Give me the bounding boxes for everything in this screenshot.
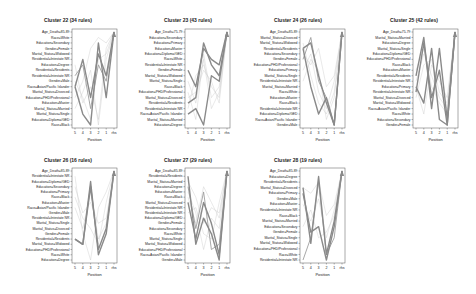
x-tick-label: 5 (187, 131, 189, 135)
x-tick-label: 5 (74, 266, 76, 270)
cluster-panel-2: Cluster 24 (26 rules)Age_Death=85-89Mari… (254, 17, 345, 142)
panel-title: Cluster 25 (42 rules) (390, 17, 438, 23)
y-axis-label: Race=White (279, 253, 298, 257)
y-axis-label: Marital_Status=Widowed (145, 74, 183, 78)
y-axis-label: Race=Black (392, 63, 410, 67)
x-tick-label: rhs (225, 266, 230, 270)
y-axis-label: Marital_Status=Widowed (260, 41, 298, 45)
x-tick-label: 5 (302, 131, 304, 135)
y-axis-label: Education=Secondary (264, 225, 298, 229)
y-axis-label: Education=PHD/Professional (367, 57, 411, 61)
rhs-arrow-icon (225, 31, 229, 37)
rule-line (75, 171, 114, 250)
y-axis-label: Residential=Intestate NR (260, 258, 298, 262)
x-axis-title: Position (87, 137, 101, 142)
y-axis-label: Race=Black (164, 195, 182, 199)
y-axis-label: Residential=Intestate NR (260, 79, 298, 83)
x-tick-label: 3 (318, 131, 320, 135)
y-axis-label: Residential=Intestate NR (145, 107, 183, 111)
y-axis-label: Residential=Intestate NR (145, 63, 183, 67)
y-axis-label: Education=Primary (382, 85, 411, 89)
y-axis-label: Education=Diploma/GED (145, 216, 183, 220)
x-tick-label: 4 (82, 266, 84, 270)
y-axis-label: Race=Black (164, 85, 182, 89)
y-axis-label: Education=Primary (154, 41, 183, 45)
y-axis-label: Education=PHD/Professional (139, 90, 183, 94)
y-axis-label: Residential=Intestate NR (32, 74, 70, 78)
x-tick-label: 3 (318, 266, 320, 270)
x-tick-label: 1 (333, 131, 335, 135)
x-tick-label: 2 (97, 131, 99, 135)
y-axis-label: Age_Death=75-79 (383, 30, 411, 34)
y-axis-label: Race=Black (279, 214, 297, 218)
y-axis-label: Marital_Status=Single (264, 74, 297, 78)
y-axis-label: Residential=Intestate NR (145, 206, 183, 210)
x-axis-title: Position (200, 137, 214, 142)
rhs-arrow-icon (225, 170, 229, 176)
y-axis-label: Education=Secondary (36, 41, 70, 45)
y-axis-label: Race=Asian/Pacific Islander (255, 118, 298, 122)
y-axis-label: Education=Diploma/GED (145, 52, 183, 56)
y-axis-label: Residential=Intestate NR (32, 57, 70, 61)
x-tick-label: 3 (203, 131, 205, 135)
y-axis-label: Gender=Male (49, 211, 70, 215)
rhs-arrow-icon (112, 170, 116, 176)
x-tick-label: 4 (82, 131, 84, 135)
x-tick-label: rhs (340, 266, 345, 270)
x-tick-label: 2 (325, 131, 327, 135)
y-axis-label: Race=White (51, 253, 70, 257)
y-axis-label: Education=Master (270, 96, 298, 100)
y-axis-label: Education=PHD/Professional (26, 248, 70, 252)
y-axis-label: Gender=Female (273, 230, 298, 234)
y-axis-label: Marital_Status=Single (36, 112, 69, 116)
x-tick-label: 4 (310, 266, 312, 270)
x-axis-title: Position (87, 272, 101, 277)
y-axis-label: Marital_Status=Divorced (373, 96, 410, 100)
y-axis-label: Education=PHD/Professional (26, 96, 70, 100)
y-axis-label: Gender=Male (277, 197, 298, 201)
y-axis-label: Residential=Intestate NR (260, 107, 298, 111)
y-axis-label: Marital_Status=Divorced (260, 36, 297, 40)
x-axis-title: Position (428, 137, 442, 142)
x-tick-label: 1 (333, 266, 335, 270)
y-axis-label: Marital_Status=Married (147, 180, 182, 184)
y-axis-label: Education=Degree (154, 123, 182, 127)
cluster-panel-3: Cluster 25 (42 rules)Age_Death=75-79Mari… (367, 17, 458, 142)
y-axis-label: Education=Degree (382, 41, 410, 45)
y-axis-label: Education=Degree (41, 63, 69, 67)
x-tick-label: rhs (340, 131, 345, 135)
y-axis-label: Marital_Status=Married (375, 36, 410, 40)
y-axis-label: Residential=Intestate NR (32, 174, 70, 178)
x-tick-label: 2 (325, 266, 327, 270)
panel-title: Cluster 24 (26 rules) (274, 17, 322, 23)
x-tick-label: 4 (423, 131, 425, 135)
x-tick-label: 5 (74, 131, 76, 135)
panel-title: Cluster 26 (16 rules) (44, 157, 92, 163)
y-axis-label: Race=Black (279, 101, 297, 105)
y-axis-label: Race=White (164, 232, 183, 236)
x-axis-title: Position (315, 272, 329, 277)
cluster-panel-6: Cluster 28 (19 rules)Age_Death=85-89Educ… (254, 157, 345, 277)
y-axis-label: Gender=Female (386, 123, 411, 127)
rhs-arrow-icon (340, 170, 344, 176)
y-axis-label: Residential=Residents (264, 47, 298, 51)
y-axis-label: Education=Secondary (264, 52, 298, 56)
x-axis-title: Position (315, 137, 329, 142)
y-axis-label: Race=Asian/Pacific Islander (368, 107, 411, 111)
y-axis-label: Gender=Female (158, 221, 183, 225)
x-axis-title: Position (200, 272, 214, 277)
y-axis-label: Residential=Intestate NR (373, 79, 411, 83)
y-axis-label: Education=Master (42, 101, 70, 105)
x-tick-label: 4 (195, 266, 197, 270)
y-axis-label: Gender=Female (273, 57, 298, 61)
y-axis-label: Education=PHD/Professional (254, 63, 298, 67)
y-axis-label: Residential=Residents (264, 180, 298, 184)
x-tick-label: 1 (218, 131, 220, 135)
y-axis-label: Education=Diploma/GED (260, 112, 298, 116)
x-tick-label: rhs (453, 131, 458, 135)
y-axis-label: Residential=Residents (36, 237, 70, 241)
x-tick-label: 1 (105, 131, 107, 135)
panel-title: Cluster 23 (43 rules) (164, 17, 212, 23)
y-axis-label: Race=Black (51, 195, 69, 199)
y-axis-label: Age_Death=85-89 (270, 169, 298, 173)
